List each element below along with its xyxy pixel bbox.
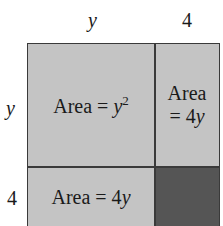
area-eq-4: = 4 <box>169 105 195 127</box>
top-label-y: y <box>88 10 97 30</box>
area-prefix: Area = <box>53 95 113 117</box>
area-y-squared-text: Area = y2 <box>27 95 155 118</box>
side-label-y: y <box>6 98 15 118</box>
area-var-y-bottom: y <box>122 186 131 208</box>
top-label-4: 4 <box>182 10 192 30</box>
area-word: Area <box>155 82 219 105</box>
area-4y-right-text: Area = 4y <box>155 82 219 128</box>
area-exponent: 2 <box>122 93 129 108</box>
side-label-4: 4 <box>7 188 17 208</box>
area-prefix-4: Area = 4 <box>51 186 121 208</box>
horizontal-divider <box>27 166 220 168</box>
area-var: y <box>113 95 122 117</box>
area-var-y: y <box>196 105 205 127</box>
area-4y-bottom-text: Area = 4y <box>27 186 155 209</box>
